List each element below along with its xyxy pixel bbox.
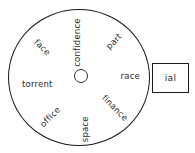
word-wheel-diagram: confidencepartracefinancespaceofficetorr… <box>0 0 195 153</box>
spoke-label: race <box>121 72 140 81</box>
suffix-box-label: ial <box>165 73 176 83</box>
suffix-box[interactable]: ial <box>152 63 189 93</box>
spoke-label: space <box>81 116 90 142</box>
wheel-center-hub <box>74 69 88 83</box>
spoke-label: confidence <box>73 18 82 67</box>
spoke-label: torrent <box>22 80 53 89</box>
